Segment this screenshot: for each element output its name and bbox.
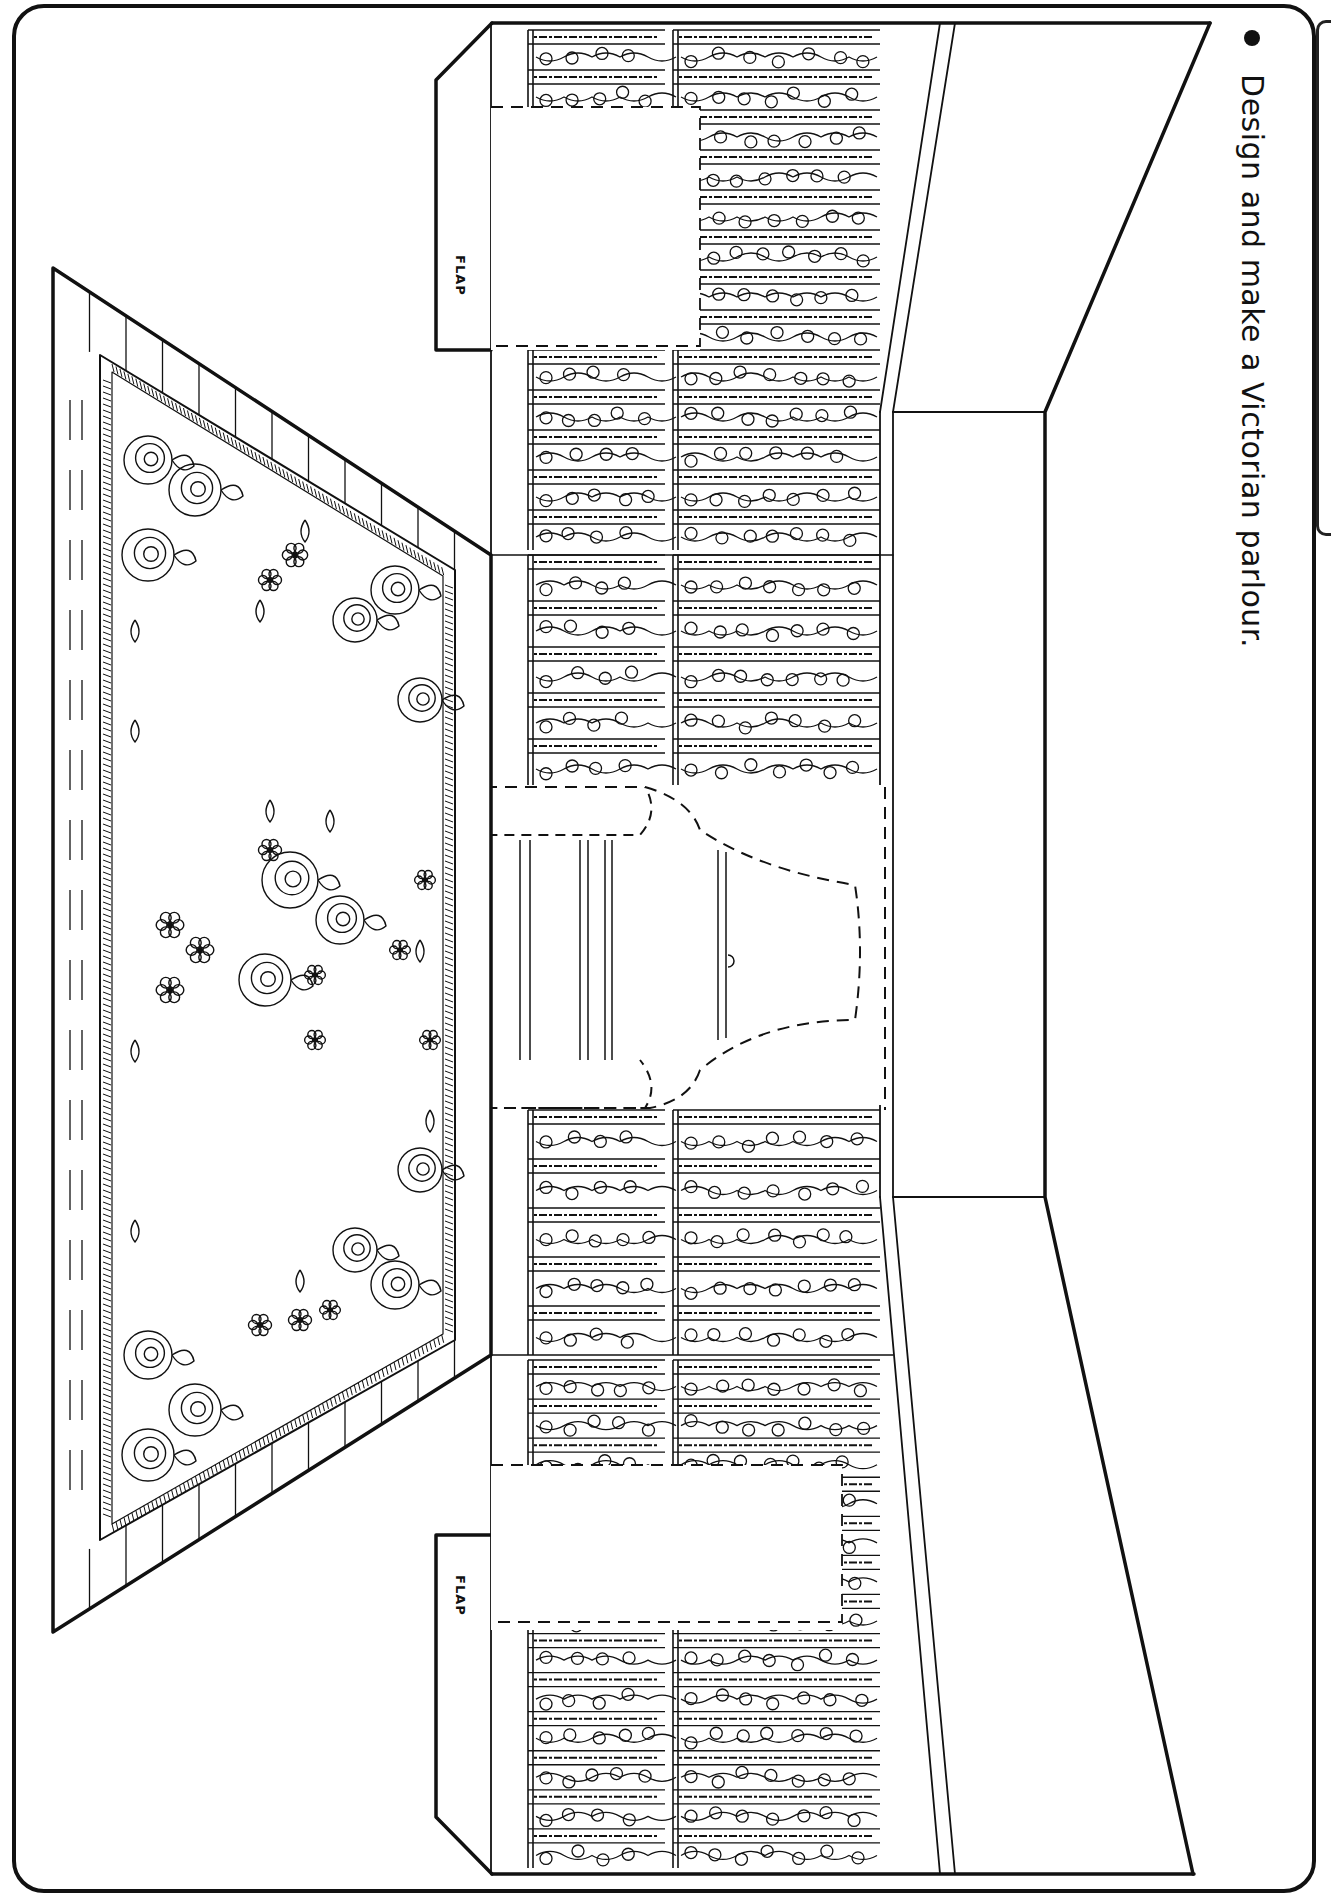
wallpaper-flower: [821, 1136, 833, 1148]
wallpaper-vine: [536, 373, 676, 381]
blossom-center: [168, 988, 173, 993]
wallpaper-flower: [846, 1653, 858, 1665]
bullet-icon: [1244, 30, 1260, 46]
wallpaper-flower: [765, 96, 777, 108]
wallpaper-flower: [600, 448, 612, 460]
wallpaper-flower: [685, 1415, 697, 1427]
wallpaper-flower: [622, 1688, 634, 1700]
wallpaper-flower: [685, 527, 697, 539]
wallpaper-flower: [739, 577, 751, 589]
wallpaper-flower: [540, 721, 552, 733]
wallpaper-flower: [856, 1694, 868, 1706]
wallpaper-flower: [837, 674, 849, 686]
wallpaper-flower: [564, 1334, 576, 1346]
wallpaper-flower: [588, 719, 600, 731]
blossom-center: [313, 973, 317, 977]
wallpaper-flower: [615, 712, 627, 724]
wallpaper-flower: [765, 712, 777, 724]
wallpaper-flower: [835, 52, 847, 64]
wallpaper-flower: [596, 626, 608, 638]
wallpaper-flower: [540, 1382, 552, 1394]
wallpaper-vine: [681, 1773, 877, 1781]
wallpaper-flower: [798, 1280, 810, 1292]
wallpaper-flower: [734, 366, 746, 378]
wallpaper-flower: [714, 1282, 726, 1294]
wallpaper-flower: [819, 1649, 831, 1661]
wallpaper-flower: [617, 86, 629, 98]
wallpaper-flower: [540, 372, 552, 384]
wallpaper-flower: [620, 494, 632, 506]
wallpaper-flower: [566, 1230, 578, 1242]
wallpaper-flower: [742, 413, 754, 425]
wallpaper-flower: [716, 326, 728, 338]
wallpaper-vine: [536, 1773, 676, 1781]
wallpaper-flower: [739, 722, 751, 734]
wallpaper-flower: [817, 623, 829, 635]
wallpaper-flower: [713, 669, 725, 681]
wallpaper-flower: [564, 1424, 576, 1436]
wallpaper-flower: [685, 1771, 697, 1783]
wallpaper-band-mid-top-right: [673, 555, 880, 785]
blossom-center: [428, 1038, 432, 1042]
wallpaper-flower: [798, 1692, 810, 1704]
flap-label-bottom: FLAP: [453, 1575, 468, 1616]
wallpaper-flower: [716, 1421, 728, 1433]
wallpaper-flower: [740, 447, 752, 459]
wallpaper-flower: [708, 1329, 720, 1341]
wallpaper-flower: [685, 1137, 697, 1149]
wallpaper-flower: [745, 759, 757, 771]
wallpaper-vine: [536, 533, 676, 541]
wallpaper-flower: [685, 1652, 697, 1664]
wallpaper-vine: [681, 173, 877, 181]
wallpaper-vine: [536, 1285, 676, 1293]
wallpaper-flower: [735, 1853, 747, 1865]
wallpaper-vine: [681, 719, 877, 727]
wallpaper-flower: [563, 712, 575, 724]
wallpaper-flower: [588, 1415, 600, 1427]
blossom-center: [268, 848, 272, 852]
blossom-center: [258, 1323, 262, 1327]
wallpaper-flower: [593, 1697, 605, 1709]
wallpaper-flower: [685, 1329, 697, 1341]
left-wall-skirting-outer: [893, 1197, 955, 1874]
wallpaper-flower: [622, 1848, 634, 1860]
wallpaper-flower: [811, 170, 823, 182]
blossom-center: [313, 1038, 317, 1042]
wallpaper-flower: [739, 1328, 751, 1340]
wallpaper-flower: [799, 1417, 811, 1429]
wallpaper-vine: [681, 333, 877, 341]
wallpaper-flower: [715, 447, 727, 459]
wallpaper-flower: [798, 1810, 810, 1822]
wallpaper-flower: [793, 584, 805, 596]
wallpaper-flower: [815, 673, 827, 685]
floor-rug: [53, 268, 491, 1632]
wallpaper-vine: [536, 581, 676, 589]
blossom-center: [328, 1308, 332, 1312]
worksheet-drawing: [0, 0, 1331, 1901]
wallpaper-vine: [536, 413, 676, 421]
wallpaper-flower: [743, 1424, 755, 1436]
wallpaper-flower: [768, 1334, 780, 1346]
instruction-text: Design and make a Victorian parlour.: [1235, 74, 1270, 648]
wallpaper-flower: [740, 1693, 752, 1705]
wallpaper-flower: [771, 327, 783, 339]
wallpaper-flower: [685, 1287, 697, 1299]
wallpaper-flower: [766, 530, 778, 542]
door-cutout-bottom: [491, 1465, 842, 1630]
wallpaper-flower: [846, 289, 858, 301]
wallpaper-vine: [536, 1851, 676, 1859]
left-wall-skirting-inner: [880, 1197, 940, 1874]
wallpaper-flower: [712, 1776, 724, 1788]
wallpaper-flower: [685, 764, 697, 776]
wallpaper-flower: [572, 1845, 584, 1857]
wallpaper-vine: [536, 1812, 676, 1820]
wallpaper-flower: [818, 95, 830, 107]
side-tab: [1316, 20, 1331, 536]
wallpaper-flower: [540, 584, 552, 596]
wallpaper-vine: [536, 493, 676, 501]
wallpaper-flower: [594, 1135, 606, 1147]
wallpaper-flower: [742, 1379, 754, 1391]
wallpaper-flower: [623, 1652, 635, 1664]
blossom-center: [168, 923, 173, 928]
wallpaper-vine: [681, 453, 877, 461]
